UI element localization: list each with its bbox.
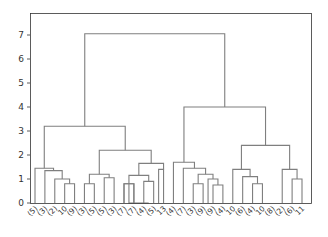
dendrogram-link <box>253 184 263 203</box>
dendrogram-links <box>35 34 302 203</box>
dendrogram-link <box>129 184 149 203</box>
dendrogram-link <box>159 169 164 203</box>
x-axis-leaf-labels: (5)(3)(2)10(9)(3)(5)(5)(3)(7)(7)(4)(5)13… <box>26 204 307 218</box>
dendrogram-link <box>233 169 250 203</box>
dendrogram-link <box>89 174 109 184</box>
y-tick-label: 5 <box>18 78 24 88</box>
y-tick-label: 2 <box>18 150 24 160</box>
y-tick-label: 4 <box>18 102 24 112</box>
dendrogram-link <box>183 168 205 203</box>
plot-frame <box>31 14 312 204</box>
dendrogram-link <box>85 34 225 126</box>
dendrogram-link <box>84 184 94 203</box>
leaf-label: 11 <box>293 204 306 217</box>
dendrogram-link <box>55 179 70 203</box>
y-tick-label: 7 <box>18 30 24 40</box>
y-tick-label: 3 <box>18 126 24 136</box>
dendrogram-link <box>213 185 223 203</box>
dendrogram-link <box>292 179 302 203</box>
y-axis: 01234567 <box>18 30 30 208</box>
dendrogram-link <box>99 150 151 174</box>
y-tick-label: 6 <box>18 54 24 64</box>
dendrogram-link <box>35 168 54 203</box>
dendrogram-chart: 01234567 (5)(3)(2)10(9)(3)(5)(5)(3)(7)(7… <box>0 0 328 237</box>
dendrogram-link <box>193 184 203 203</box>
dendrogram-link <box>241 145 289 169</box>
y-tick-label: 0 <box>18 198 24 208</box>
dendrogram-link <box>282 169 297 203</box>
dendrogram-link <box>104 178 114 203</box>
dendrogram-link <box>144 181 154 203</box>
y-tick-label: 1 <box>18 174 24 184</box>
dendrogram-link <box>129 175 149 183</box>
dendrogram-link <box>65 184 75 203</box>
dendrogram-link <box>45 171 62 203</box>
dendrogram-link <box>184 107 266 162</box>
dendrogram-link <box>44 126 125 168</box>
dendrogram-link <box>243 177 258 203</box>
